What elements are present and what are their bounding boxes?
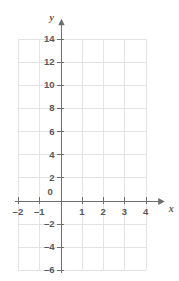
horizontal-gridlines [18, 40, 146, 271]
x-tick-label: –1 [29, 207, 49, 217]
axes [15, 19, 165, 273]
y-axis-label: y [50, 13, 54, 23]
y-axis-arrowhead [58, 19, 64, 26]
y-tick-label: 8 [49, 103, 54, 113]
y-tick-label: 6 [49, 127, 54, 137]
y-tick-label: 14 [44, 34, 55, 44]
x-tick-label: 4 [136, 207, 156, 217]
x-axis-arrowhead [158, 198, 165, 205]
x-tick-label: 1 [72, 207, 92, 217]
x-tick-label: –2 [8, 207, 28, 217]
origin-label: 0 [48, 187, 53, 197]
x-axis-label: x [169, 204, 174, 214]
y-axis-tick-marks [57, 40, 64, 271]
x-tick-label: 2 [93, 207, 113, 217]
y-tick-label: –6 [44, 265, 55, 275]
y-tick-label: 12 [44, 57, 55, 67]
coordinate-plane-svg [0, 0, 179, 281]
x-tick-label: 3 [114, 207, 134, 217]
coordinate-grid-figure: 1412108642–2–4–6 –2–11234 0 y x [0, 0, 179, 281]
y-tick-label: 2 [49, 173, 54, 183]
y-tick-label: 10 [44, 80, 55, 90]
y-tick-label: 4 [49, 150, 54, 160]
y-tick-label: –4 [44, 242, 55, 252]
x-axis-tick-marks [19, 197, 147, 204]
y-tick-label: –2 [44, 219, 55, 229]
